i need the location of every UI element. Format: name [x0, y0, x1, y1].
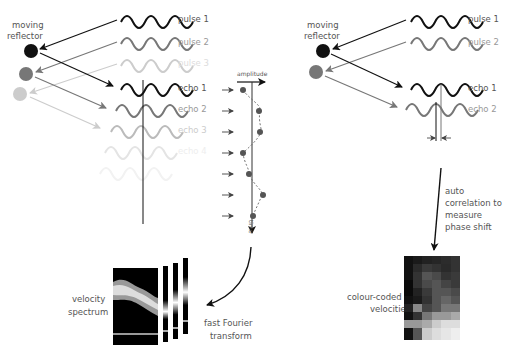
- colour-coded-label: colour-coded: [347, 292, 402, 302]
- velocity-spectrum-image: [113, 268, 158, 345]
- sample-arrows: [222, 90, 233, 216]
- velocity-spectrum-label: spectrum: [68, 307, 108, 317]
- autocorrelation-label: correlation to: [445, 198, 502, 208]
- time-label: time: [248, 220, 255, 234]
- echo-4-wave: [105, 147, 177, 159]
- pulse-2-label-right: pulse 2: [468, 37, 499, 47]
- pulse-2-label: pulse 2: [178, 37, 209, 47]
- echo-5-wave: [100, 168, 172, 180]
- velocity-map-image: [404, 256, 460, 340]
- echo-3-label: echo 3: [178, 125, 207, 135]
- pulse-1-label: pulse 1: [178, 14, 209, 24]
- reflector-dot-1: [24, 44, 38, 58]
- echo-2-label-right: echo 2: [468, 104, 497, 114]
- fft-label: transform: [210, 331, 252, 341]
- fft-label: fast Fourier: [204, 318, 253, 328]
- echo-1-label-right: echo 1: [468, 83, 497, 93]
- echo-3-wave: [111, 126, 183, 138]
- pulse-3-label: pulse 3: [178, 58, 209, 68]
- echo-2-label: echo 2: [178, 104, 207, 114]
- echo-4-label: echo 4: [178, 146, 207, 156]
- echo-1-label: echo 1: [178, 83, 207, 93]
- velocity-spectrum-label: velocity: [72, 294, 105, 304]
- reflector-label-right: reflector: [304, 31, 340, 41]
- reflector-label-right: moving: [307, 20, 339, 30]
- autocorrelation-label: phase shift: [445, 222, 492, 232]
- reflector-label: reflector: [7, 31, 43, 41]
- reflector-dot-3: [13, 87, 27, 101]
- reflector-label: moving: [12, 20, 44, 30]
- spectrum-slices: [163, 258, 188, 342]
- doppler-diagram: moving reflector pulse 1 pulse 2 pulse 3…: [0, 0, 505, 354]
- reflector-dot-right-1: [316, 44, 330, 58]
- reflector-dot-2: [19, 67, 33, 81]
- fft-arrow: [207, 247, 251, 305]
- autocorrelation-label: auto: [445, 186, 464, 196]
- reflector-dot-right-2: [309, 65, 323, 79]
- sample-points: [240, 87, 266, 219]
- pulse-1-label-right: pulse 1: [468, 14, 499, 24]
- autocorrelation-label: measure: [445, 210, 482, 220]
- amplitude-label: amplitude: [237, 70, 268, 78]
- autocorrelation-arrow: [434, 168, 441, 250]
